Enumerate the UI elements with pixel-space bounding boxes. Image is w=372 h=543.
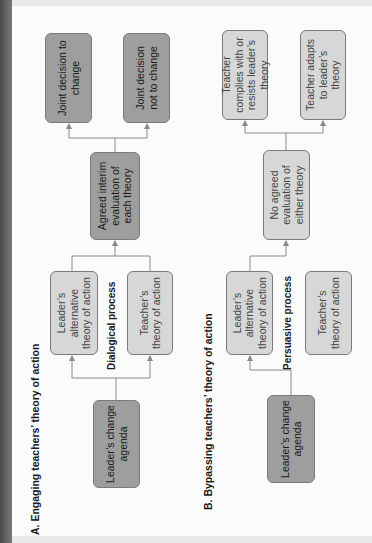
- b-process-label: Persuasive process: [282, 276, 293, 370]
- b-teacher-theory: Teacher’s theory of action: [305, 271, 352, 355]
- a-joint-decision-change: Joint decision to change: [45, 33, 92, 123]
- b-no-agreed-evaluation: No agreed evaluation of either theory: [263, 150, 310, 240]
- b-leader-change-agenda: Leader’s change agenda: [267, 395, 315, 483]
- b-teacher-adapts: Teacher adapts to leader’s theory: [300, 30, 346, 120]
- a-leader-change-agenda: Leader’s change agenda: [93, 400, 140, 488]
- section-b-title: B. Bypassing teachers’ theory of action: [202, 313, 214, 510]
- a-process-label: Dialogical process: [106, 282, 117, 370]
- b-teacher-complies-or-resists: Teacher complies with or resists leader’…: [222, 30, 268, 120]
- diagram-stage: A. Engaging teachers’ theory of action L…: [0, 0, 372, 543]
- a-joint-decision-not-change: Joint decision not to change: [123, 33, 170, 123]
- b-leader-alternative-theory: Leader’s alternative theory of action: [226, 271, 273, 355]
- section-a-title: A. Engaging teachers’ theory of action: [29, 344, 41, 535]
- a-agreed-evaluation: Agreed interim evaluation of each theory: [90, 152, 140, 240]
- a-leader-alternative-theory: Leader’s alternative theory of action: [50, 271, 98, 355]
- a-teacher-theory: Teacher’s theory of action: [127, 271, 173, 355]
